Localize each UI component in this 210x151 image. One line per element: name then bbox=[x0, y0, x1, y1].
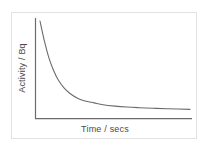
y-axis-label-container: Activity / Bq bbox=[14, 20, 30, 115]
decay-curve-line bbox=[40, 21, 190, 109]
y-axis-label: Activity / Bq bbox=[17, 43, 27, 93]
x-axis-label: Time / secs bbox=[0, 124, 210, 134]
decay-curve-figure: Activity / Bq Time / secs bbox=[0, 0, 210, 151]
